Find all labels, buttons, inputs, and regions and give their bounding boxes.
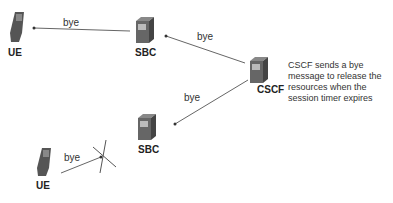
message-label: bye <box>64 152 80 163</box>
server-icon <box>133 17 155 43</box>
mobile-phone-icon <box>35 147 53 177</box>
blocked-x-line-2 <box>100 140 106 173</box>
sbc-top-label: SBC <box>135 47 156 58</box>
mobile-phone-icon <box>8 11 26 43</box>
ue-bottom-label: UE <box>36 180 50 191</box>
message-label: bye <box>184 92 200 103</box>
server-icon <box>135 114 157 140</box>
sbc-bottom-label: SBC <box>138 144 159 155</box>
message-label: bye <box>197 31 213 42</box>
message-label: bye <box>63 17 79 28</box>
ue-top-label: UE <box>8 47 22 58</box>
cscf-label: CSCF <box>257 84 284 95</box>
annotation-note: CSCF sends a bye message to release the … <box>288 60 393 104</box>
server-icon <box>247 57 269 83</box>
